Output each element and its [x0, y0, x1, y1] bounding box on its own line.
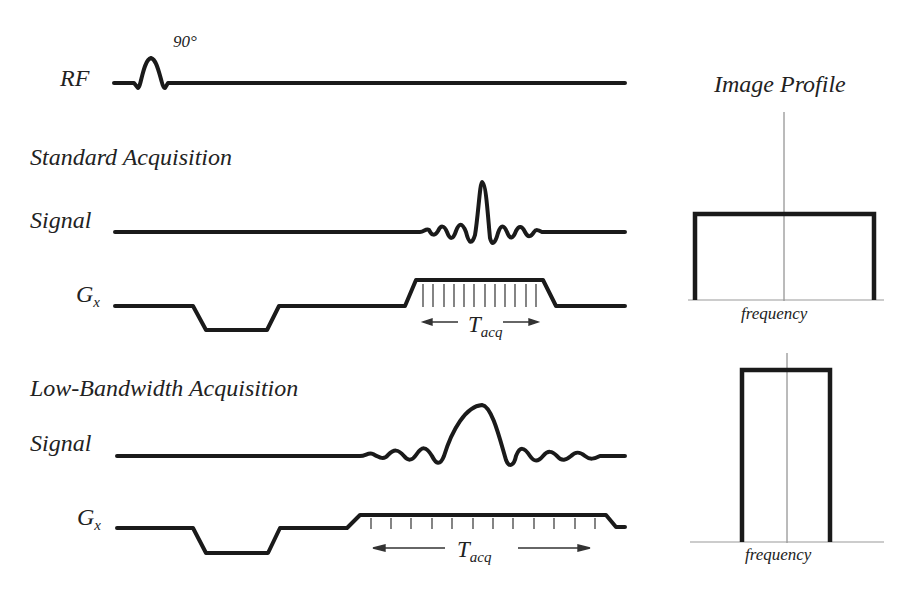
standard-profile-plot — [688, 112, 884, 301]
standard-frequency-label: frequency — [741, 305, 807, 322]
lowbw-sample-ticks — [371, 518, 595, 529]
lowbw-signal — [117, 405, 625, 465]
standard-gradient-label: Gx — [76, 282, 100, 310]
lowbw-gradient-label: Gx — [77, 505, 101, 533]
standard-title: Standard Acquisition — [30, 145, 232, 169]
image-profile-title: Image Profile — [714, 72, 846, 96]
lowbw-frequency-label: frequency — [745, 546, 811, 563]
standard-sample-ticks — [423, 284, 536, 307]
standard-gradient — [115, 280, 625, 330]
standard-signal — [115, 182, 625, 243]
rf-waveform — [114, 58, 625, 88]
lowbw-signal-label: Signal — [30, 431, 91, 455]
rf-label: RF — [60, 66, 89, 90]
flip-angle-label: 90° — [173, 33, 197, 50]
standard-signal-label: Signal — [30, 208, 91, 232]
lowbw-profile-plot — [690, 353, 884, 543]
standard-tacq-label: Tacq — [468, 313, 502, 340]
lowbw-title: Low-Bandwidth Acquisition — [30, 376, 298, 400]
lowbw-tacq-label: Tacq — [457, 538, 491, 565]
